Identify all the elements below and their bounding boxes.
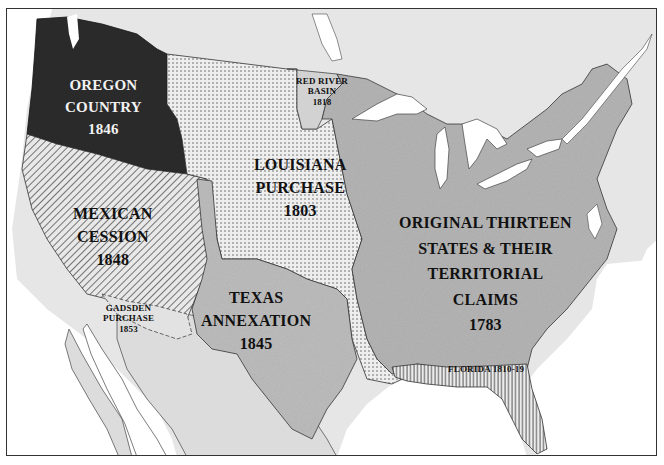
label-line: 1818 [296, 97, 348, 107]
label-line: ANNEXATION [201, 309, 311, 332]
label-line: STATES & THEIR [399, 236, 572, 262]
label-mexican-cession: MEXICAN CESSION 1848 [73, 202, 153, 272]
label-line: ORIGINAL THIRTEEN [399, 210, 572, 236]
label-gadsden-purchase: GADSDEN PURCHASE 1853 [103, 303, 154, 334]
label-line: BASIN [296, 86, 348, 96]
label-line: OREGON [65, 75, 142, 97]
label-texas-annexation: TEXAS ANNEXATION 1845 [201, 286, 311, 356]
label-line: 1848 [73, 248, 153, 271]
label-line: CESSION [73, 225, 153, 248]
label-line: 1783 [399, 312, 572, 338]
label-line: 1853 [103, 324, 154, 334]
label-line: TERRITORIAL [399, 261, 572, 287]
label-red-river-basin: RED RIVER BASIN 1818 [296, 76, 348, 107]
label-line: TEXAS [201, 286, 311, 309]
label-line: COUNTRY [65, 97, 142, 119]
label-line: FLORIDA 1810-19 [448, 364, 524, 374]
label-line: GADSDEN [103, 303, 154, 313]
label-louisiana-purchase: LOUISIANA PURCHASE 1803 [254, 153, 347, 223]
label-line: CLAIMS [399, 287, 572, 313]
label-florida: FLORIDA 1810-19 [448, 364, 524, 374]
label-line: LOUISIANA [254, 153, 347, 176]
label-line: PURCHASE [254, 176, 347, 199]
label-line: PURCHASE [103, 313, 154, 323]
label-line: 1846 [65, 119, 142, 141]
label-line: RED RIVER [296, 76, 348, 86]
label-oregon-country: OREGON COUNTRY 1846 [65, 75, 142, 140]
territorial-expansion-map: OREGON COUNTRY 1846 RED RIVER BASIN 1818… [6, 8, 657, 456]
label-line: MEXICAN [73, 202, 153, 225]
label-original-thirteen-states: ORIGINAL THIRTEEN STATES & THEIR TERRITO… [399, 210, 572, 338]
label-line: 1845 [201, 332, 311, 355]
label-line: 1803 [254, 199, 347, 222]
